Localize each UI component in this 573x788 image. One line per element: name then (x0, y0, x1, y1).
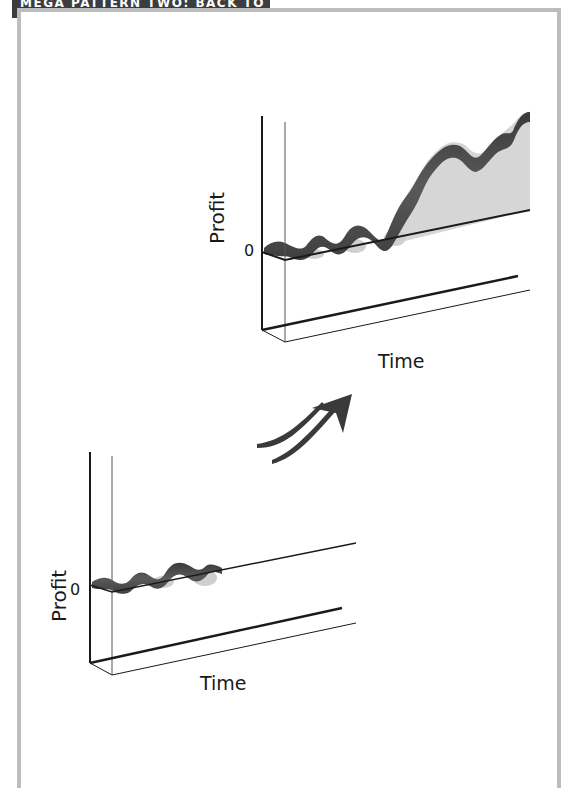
before-chart-y-axis-label: Profit (47, 570, 71, 622)
after-chart-profit-area (385, 112, 530, 246)
arrow-up-right-icon (257, 394, 352, 464)
before-chart: 0 Profit Time (47, 452, 356, 694)
after-chart-x-axis-label: Time (377, 350, 425, 372)
before-chart-x-axis-label: Time (199, 672, 247, 694)
after-chart: 0 Profit Time (205, 112, 530, 372)
before-chart-zero-label: 0 (70, 580, 80, 599)
after-chart-y-axis-label: Profit (205, 192, 229, 244)
after-chart-zero-label: 0 (244, 241, 254, 260)
